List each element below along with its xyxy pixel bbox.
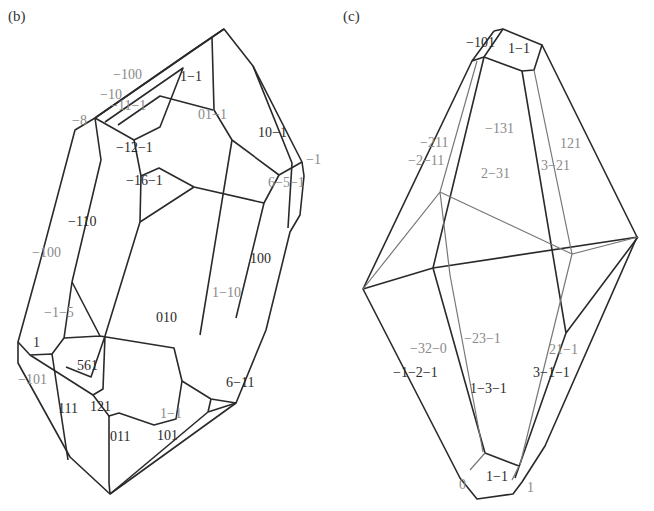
face-label-b: 6−5−1 (268, 176, 305, 190)
face-label-c: 2−31 (481, 167, 510, 181)
face-label-b: 1−1 (160, 407, 182, 421)
face-label-b: 011 (110, 430, 130, 444)
panel-label-b: (b) (8, 8, 26, 25)
face-label-c: −2−11 (408, 154, 444, 168)
face-label-b: −110 (68, 215, 96, 229)
face-label-b: 1 (33, 336, 40, 350)
crystal-c-edges (363, 29, 638, 499)
face-label-c: 1−1 (508, 42, 530, 56)
crystal-diagram (0, 0, 654, 511)
face-label-b: 010 (156, 311, 177, 325)
face-label-b: 100 (250, 252, 271, 266)
face-label-b: 101 (157, 429, 178, 443)
face-label-b: 121 (90, 400, 111, 414)
face-label-c: −101 (466, 36, 495, 50)
face-label-b: −12−1 (116, 141, 153, 155)
face-label-c: 1 (527, 481, 534, 495)
face-label-c: 1−3−1 (470, 382, 507, 396)
face-label-b: 561 (77, 359, 98, 373)
face-label-b: 10−1 (258, 126, 287, 140)
face-label-b: −1 (306, 153, 321, 167)
face-label-c: −1−2−1 (393, 366, 438, 380)
panel-label-c: (c) (343, 8, 360, 25)
face-label-b: −100 (32, 246, 61, 260)
face-label-c: 1−1 (486, 470, 508, 484)
face-label-b: 6−11 (226, 376, 254, 390)
face-label-c: 121 (560, 137, 581, 151)
face-label-c: −23−1 (464, 332, 501, 346)
face-label-c: −211 (420, 136, 448, 150)
face-label-c: 21−1 (549, 343, 578, 357)
face-label-c: −131 (485, 122, 514, 136)
face-label-b: 111 (58, 402, 78, 416)
face-label-b: −8 (72, 114, 87, 128)
face-label-b: 1−1 (180, 70, 202, 84)
face-label-b: −101 (18, 373, 47, 387)
face-label-b: 01−1 (198, 108, 227, 122)
face-label-b: −16−1 (126, 174, 163, 188)
face-label-b: −1−5 (44, 306, 74, 320)
face-label-b: −100 (113, 68, 142, 82)
face-label-c: 3−1−1 (533, 366, 570, 380)
face-label-c: 0 (459, 478, 466, 492)
face-label-b: −11−1 (110, 99, 146, 113)
face-label-c: −32−0 (410, 342, 447, 356)
face-label-b: 1−10 (212, 286, 241, 300)
face-label-c: 3−21 (541, 159, 570, 173)
